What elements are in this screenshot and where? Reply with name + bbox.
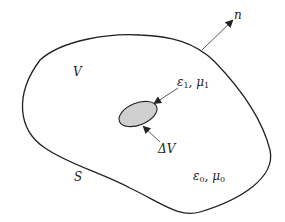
diagram-canvas: [0, 0, 285, 222]
inclusion-material-arrow: [155, 88, 178, 103]
inclusion-delta-v: [115, 96, 160, 131]
mu0-symbol: μ: [212, 169, 220, 183]
delta-v-label: ΔV: [158, 143, 175, 155]
background-material-label: ε0, μ0: [193, 170, 225, 184]
inclusion-material-label: ε1, μ1: [177, 76, 209, 90]
mu0-subscript: 0: [220, 175, 225, 184]
normal-label: n: [234, 9, 242, 21]
mu1-subscript: 1: [204, 81, 209, 90]
mu1-symbol: μ: [196, 75, 204, 89]
normal-arrow: [202, 21, 232, 50]
surface-label: S: [74, 171, 82, 183]
region-boundary: [22, 35, 270, 214]
delta-v-arrow: [144, 127, 160, 142]
volume-label: V: [73, 66, 82, 78]
